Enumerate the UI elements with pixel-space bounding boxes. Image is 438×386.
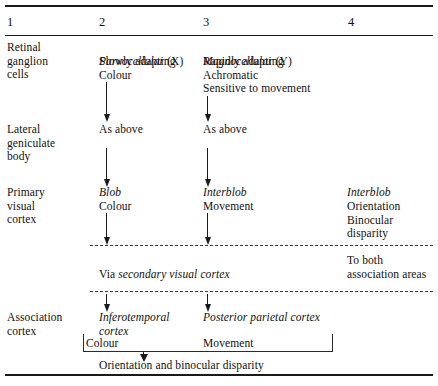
v1-col2-properties: Colour [99,200,132,214]
v1-col4-properties: Orientation Binocular disparity [347,200,400,241]
column-header-2: 2 [99,15,105,29]
v1-col3-term: Interblob [203,186,247,200]
arrow-secondary-to-association-col2 [106,294,107,305]
retina-col3-properties: Rapidly adapting Achromatic Sensitive to… [203,55,311,96]
column-header-3: 3 [203,15,209,29]
via-term: secondary visual cortex [118,268,230,280]
top-border-rule [5,5,433,7]
arrow-v1-to-secondary-col2 [106,213,107,238]
figure-canvas: 1 2 3 4 Retinal ganglion cells Parvocell… [0,0,438,386]
association-summary: Orientation and binocular disparity [99,359,264,373]
arrow-v1-to-secondary-col3 [207,213,208,238]
stage-label-lateral-geniculate-body: Lateral geniculate body [7,123,55,164]
arrow-lgb-to-v1-col3 [207,148,208,180]
association-col3-term: Posterior parietal cortex [203,311,320,325]
lgb-col2-value: As above [99,123,143,137]
via-prefix: Via [99,268,118,280]
arrow-retina-to-lgb-col3 [207,96,208,115]
column-header-1: 1 [7,15,13,29]
to-both-association-areas: To both association areas [347,254,426,281]
v1-col2-term: Blob [99,186,121,200]
v1-col4-term: Interblob [347,186,391,200]
stage-label-retinal-ganglion-cells: Retinal ganglion cells [7,41,48,82]
v1-col3-properties: Movement [203,200,254,214]
retina-col2-properties: Slowly adapting Colour [99,55,176,82]
via-secondary-visual-cortex: Via secondary visual cortex [99,254,230,281]
dashed-divider-secondary-cortex [90,245,433,246]
lgb-col3-value: As above [203,123,247,137]
header-separator-rule [5,35,433,36]
column-header-4: 4 [348,15,354,29]
convergence-bracket [83,334,333,352]
dashed-divider-association-cortex [90,291,433,292]
arrow-lgb-to-v1-col2 [106,148,107,180]
arrow-retina-to-lgb-col2 [106,82,107,115]
arrow-secondary-to-association-col3 [207,294,208,305]
arrow-bracket-to-summary [143,351,144,355]
bottom-border-rule [5,374,433,376]
stage-label-association-cortex: Association cortex [7,311,62,338]
stage-label-primary-visual-cortex: Primary visual cortex [7,186,45,227]
